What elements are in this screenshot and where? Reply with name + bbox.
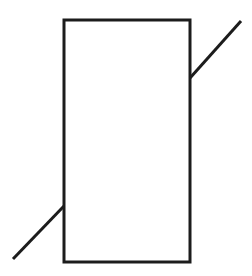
upper-right-diagonal-line: [190, 21, 241, 78]
figure-canvas: [0, 0, 252, 276]
lower-left-diagonal-line: [13, 206, 64, 259]
line-drawing-svg: [0, 0, 252, 276]
main-rectangle: [64, 20, 190, 262]
